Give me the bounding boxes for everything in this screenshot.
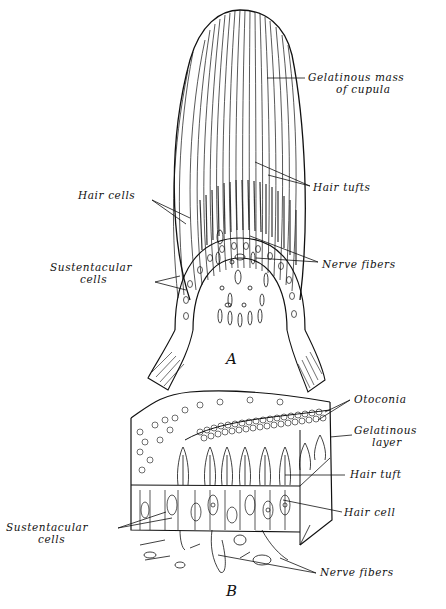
- label-layer: layer: [372, 437, 402, 448]
- cupula-figure: [148, 10, 325, 392]
- label-hair-cell: Hair cell: [344, 507, 395, 518]
- figure-letter-b: B: [226, 582, 237, 600]
- label-hair-tufts: Hair tufts: [313, 182, 371, 193]
- label-nerve-fibers-b: Nerve fibers: [320, 567, 394, 578]
- label-sustentacular-cells-a: cells: [80, 274, 107, 285]
- label-gelatinous-layer: Gelatinous: [354, 425, 417, 436]
- label-sustentacular-cells-b: cells: [38, 534, 65, 545]
- label-sustentacular-a: Sustentacular: [50, 262, 132, 273]
- label-otoconia: Otoconia: [354, 394, 407, 405]
- figure-letter-a: A: [226, 350, 237, 368]
- label-nerve-fibers-a: Nerve fibers: [322, 259, 396, 270]
- label-of-cupula: of cupula: [336, 84, 391, 95]
- label-sustentacular-b: Sustentacular: [6, 522, 88, 533]
- label-gelatinous-mass: Gelatinous mass: [308, 72, 404, 83]
- label-hair-tuft: Hair tuft: [350, 469, 402, 480]
- label-hair-cells: Hair cells: [78, 190, 135, 201]
- macula-figure: [118, 391, 352, 573]
